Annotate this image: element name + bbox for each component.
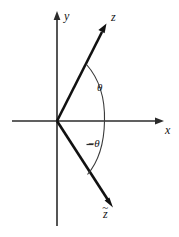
neg-theta-symbol: θ — [94, 137, 99, 149]
tilde-accent-icon: ~ — [102, 202, 108, 213]
ray-z — [57, 24, 107, 122]
theta-label: θ — [97, 82, 102, 93]
ray-z-tilde-label: ~z — [103, 208, 108, 220]
y-axis-arrowhead-icon — [54, 11, 61, 20]
ray-z-label: z — [111, 11, 116, 23]
axis-diagram-figure: y x z ~z θ −θ — [0, 0, 179, 237]
neg-theta-label: −θ — [88, 138, 100, 149]
y-axis-label: y — [64, 10, 69, 22]
x-axis-arrowhead-icon — [155, 118, 164, 125]
ray-z-arrowhead-icon — [98, 24, 106, 34]
x-axis-label: x — [165, 124, 170, 136]
z-tilde-glyph: ~z — [103, 208, 108, 220]
x-axis — [12, 118, 164, 125]
ray-z-tilde — [57, 121, 113, 208]
ray-z-tilde-line — [57, 121, 108, 200]
diagram-canvas — [0, 0, 179, 237]
